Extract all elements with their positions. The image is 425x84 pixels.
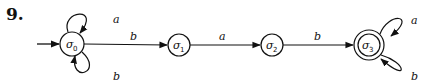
- state-s2-sub: 2: [273, 46, 277, 54]
- state-s0-sub: 0: [73, 45, 77, 53]
- label-s2-s3: b: [314, 30, 321, 43]
- loop-s3-a: [380, 18, 402, 36]
- state-s0[interactable]: σ 0: [60, 32, 84, 56]
- state-s3[interactable]: σ 3: [354, 30, 384, 60]
- label-s3-b: b: [411, 70, 418, 83]
- label-s3-a: a: [411, 14, 418, 27]
- label-s1-s2: a: [219, 30, 226, 43]
- state-diagram: σ 0 a b b σ 1 a σ 2 b σ 3 a b: [0, 0, 425, 84]
- label-s0-b: b: [113, 70, 120, 83]
- label-s0-s1: b: [130, 30, 137, 43]
- label-s0-a: a: [113, 13, 120, 26]
- edge-s0-s1: [84, 44, 167, 45]
- state-s3-sub: 3: [369, 46, 373, 54]
- loop-s3-b: [381, 55, 401, 71]
- loop-s0-a: [67, 14, 86, 33]
- state-s1[interactable]: σ 1: [168, 34, 190, 56]
- state-s1-sub: 1: [180, 46, 184, 54]
- state-s2[interactable]: σ 2: [261, 34, 283, 56]
